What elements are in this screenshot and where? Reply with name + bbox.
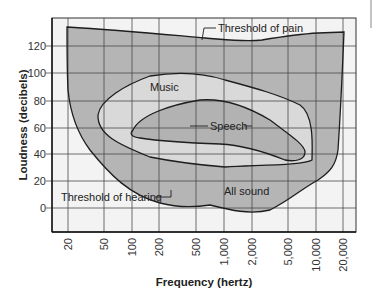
svg-text:500: 500 xyxy=(190,238,202,256)
svg-text:1,000: 1,000 xyxy=(218,238,230,266)
svg-text:200: 200 xyxy=(153,238,165,256)
svg-text:80: 80 xyxy=(34,95,46,107)
y-tick-labels: 120 100 80 60 40 20 0 xyxy=(28,40,46,214)
all-sound-label: All sound xyxy=(224,185,269,197)
svg-text:60: 60 xyxy=(34,122,46,134)
loudness-frequency-chart: Threshold of pain Music Speech Threshold… xyxy=(0,0,372,294)
y-axis-title: Loudness (decibels) xyxy=(17,69,29,180)
svg-text:20: 20 xyxy=(34,175,46,187)
x-axis-title: Frequency (hertz) xyxy=(156,276,253,288)
svg-text:120: 120 xyxy=(28,40,46,52)
svg-text:20,000: 20,000 xyxy=(337,238,349,272)
svg-text:20: 20 xyxy=(62,238,74,250)
svg-text:50: 50 xyxy=(98,238,110,250)
svg-text:10,000: 10,000 xyxy=(310,238,322,272)
x-tick-labels: 20 50 100 200 500 1,000 2,000 5,000 10,0… xyxy=(62,238,349,272)
music-label: Music xyxy=(150,81,179,93)
svg-text:5,000: 5,000 xyxy=(282,238,294,266)
threshold-of-hearing-label: Threshold of hearing xyxy=(61,191,162,203)
svg-text:2,000: 2,000 xyxy=(246,238,258,266)
svg-text:100: 100 xyxy=(126,238,138,256)
svg-text:100: 100 xyxy=(28,67,46,79)
svg-text:0: 0 xyxy=(40,202,46,214)
speech-label: Speech xyxy=(210,120,247,132)
threshold-of-pain-label: Threshold of pain xyxy=(218,22,303,34)
svg-text:40: 40 xyxy=(34,148,46,160)
